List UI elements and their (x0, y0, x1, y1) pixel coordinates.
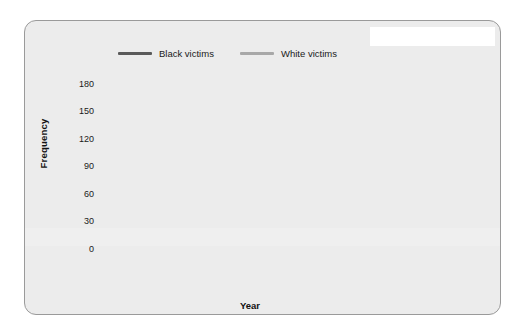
top-lynching-states-table (370, 27, 495, 46)
legend-swatch-white-victims (240, 52, 274, 55)
x-axis-label: Year (100, 300, 400, 311)
figure-panel (24, 20, 501, 315)
legend-item-white-victims[interactable]: White victims (240, 49, 337, 59)
y-tick-label: 30 (52, 216, 94, 226)
legend-label-white-victims: White victims (281, 49, 337, 59)
legend-item-black-victims[interactable]: Black victims (118, 49, 214, 59)
y-tick-label: 90 (52, 161, 94, 171)
scan-band (25, 228, 500, 246)
chart-figure: Black victims White victims Frequency Ye… (0, 0, 527, 336)
y-tick-label: 150 (52, 106, 94, 116)
y-tick-label: 0 (52, 244, 94, 254)
legend-swatch-black-victims (118, 52, 152, 55)
y-tick-label: 180 (52, 79, 94, 89)
y-axis-label: Frequency (38, 99, 49, 189)
legend-label-black-victims: Black victims (159, 49, 214, 59)
y-tick-label: 120 (52, 134, 94, 144)
y-tick-label: 60 (52, 189, 94, 199)
